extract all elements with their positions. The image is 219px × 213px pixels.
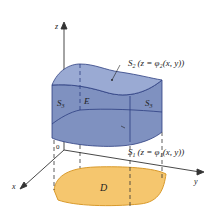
diagram-canvas: z y x 0 S2(z = φ₂(x, y)) S1(z = φ₁(x, y)… [0, 0, 219, 213]
y-arrow-icon [197, 169, 204, 175]
origin-label: 0 [56, 143, 60, 151]
z-axis-label: z [54, 22, 59, 31]
s2-label: S2(z = φ₂(x, y)) [128, 58, 184, 69]
z-arrow-icon [61, 22, 67, 29]
y-axis-label: y [193, 177, 198, 186]
region-d-label: D [99, 182, 108, 193]
region-d [54, 167, 166, 206]
x-axis-label: x [11, 182, 16, 191]
s1-label: S1(z = φ₁(x, y)) [128, 147, 184, 158]
x-arrow-icon [20, 182, 27, 189]
solid-e-label: E [83, 96, 90, 106]
